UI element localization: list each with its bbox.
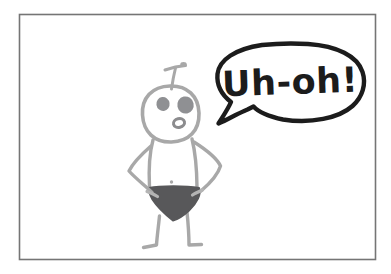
cartoon-panel: Uh-oh! [0,0,391,274]
antenna-tip [180,62,186,67]
torso-right-line [192,139,197,187]
right-leg [187,212,202,245]
mouth [173,117,186,128]
underwear [149,186,200,220]
left-leg [144,216,160,248]
speech-text: Uh-oh! [222,60,359,105]
belly-button [170,180,173,183]
character-head [142,86,199,142]
cartoon-drawing: Uh-oh! [0,0,391,274]
arms [129,142,221,193]
